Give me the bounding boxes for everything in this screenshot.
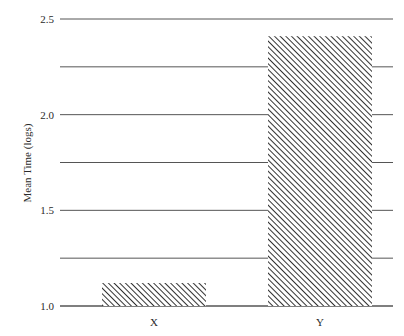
y-axis-title: Mean Time (logs)	[21, 123, 34, 202]
y-tick-label: 2.5	[40, 13, 54, 25]
x-axis-labels: XY	[150, 316, 324, 328]
bars	[102, 36, 372, 306]
x-tick-label: X	[150, 316, 158, 328]
x-tick-label: Y	[316, 316, 324, 328]
y-tick-label: 1.5	[40, 204, 54, 216]
bar-chart: 1.01.52.02.5 XY Mean Time (logs)	[0, 0, 404, 336]
bar-x	[102, 283, 206, 306]
y-tick-label: 1.0	[40, 300, 54, 312]
y-tick-label: 2.0	[40, 109, 54, 121]
y-axis-ticks: 1.01.52.02.5	[40, 13, 54, 312]
bar-y	[268, 36, 372, 306]
